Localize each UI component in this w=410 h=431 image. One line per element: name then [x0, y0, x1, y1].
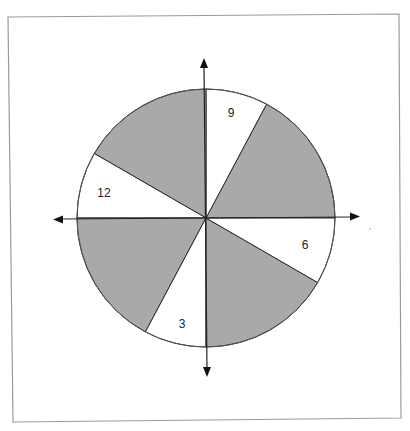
- arrow-up-icon: [200, 58, 208, 68]
- scan-speck: [369, 228, 371, 230]
- sector-label-6: 6: [302, 238, 309, 252]
- sector-label-9: 9: [228, 106, 235, 120]
- arrow-right-icon: [350, 213, 360, 221]
- arrow-down-icon: [203, 367, 211, 377]
- sector-label-3: 3: [179, 317, 186, 331]
- arrow-left-icon: [53, 216, 63, 224]
- sector-label-12: 12: [97, 186, 111, 200]
- spinner-diagram: 9 12 6 3: [0, 0, 410, 431]
